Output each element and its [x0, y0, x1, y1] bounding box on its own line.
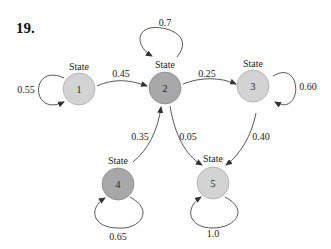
state-number: 3: [251, 81, 256, 92]
state-number: 4: [116, 179, 121, 190]
state-caption: State: [203, 153, 224, 164]
edge-5-5: [191, 197, 238, 228]
prob-label-2-2: 0.7: [159, 17, 172, 28]
edge-1-1: [39, 75, 65, 105]
state-5: State 5: [197, 153, 229, 199]
state-4: State 4: [102, 155, 134, 200]
state-number: 1: [77, 84, 82, 95]
state-3: State 3: [237, 58, 269, 102]
state-2: State 2: [149, 59, 181, 104]
prob-label-5-5: 1.0: [207, 228, 220, 239]
state-number: 5: [211, 178, 216, 189]
edge-4-4: [95, 197, 143, 228]
edge-2-3: [183, 79, 236, 84]
state-caption: State: [155, 59, 176, 70]
prob-label-1-2: 0.45: [112, 68, 130, 79]
edge-1-2: [97, 81, 147, 86]
prob-label-2-3: 0.25: [198, 68, 216, 79]
prob-label-4-4: 0.65: [109, 231, 127, 242]
markov-chain-diagram: State 1 State 2 State 3 State 4 State 5 …: [0, 0, 331, 249]
prob-label-4-2: 0.35: [131, 131, 149, 142]
prob-label-3-3: 0.60: [299, 81, 317, 92]
state-caption: State: [243, 58, 264, 69]
state-number: 2: [163, 83, 168, 94]
edge-3-3: [273, 73, 296, 105]
state-1: State 1: [63, 61, 95, 105]
prob-label-1-1: 0.55: [17, 84, 35, 95]
prob-label-2-5: 0.05: [179, 131, 197, 142]
state-caption: State: [108, 155, 129, 166]
edge-2-2: [140, 27, 183, 57]
prob-label-3-5: 0.40: [252, 131, 270, 142]
state-caption: State: [69, 61, 90, 72]
